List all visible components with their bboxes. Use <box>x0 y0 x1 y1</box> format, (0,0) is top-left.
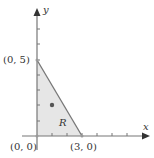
vertex-marker-origin <box>36 135 39 138</box>
region-diagram: y x (0, 5) (0, 0) (3, 0) R <box>0 0 154 158</box>
y-axis-arrow-icon <box>34 8 41 16</box>
x-axis-label: x <box>143 122 149 132</box>
vertex-marker-x-intercept <box>81 135 84 138</box>
interior-point <box>50 103 54 107</box>
diagram-canvas <box>0 0 154 158</box>
vertex-label-x-intercept: (3, 0) <box>70 142 97 152</box>
vertex-label-origin: (0, 0) <box>10 142 37 152</box>
region-label: R <box>59 118 67 128</box>
y-axis-label: y <box>43 5 49 15</box>
vertex-label-y-intercept: (0, 5) <box>3 55 30 65</box>
x-axis-arrow-icon <box>142 133 150 140</box>
vertex-marker-y-intercept <box>36 59 39 62</box>
